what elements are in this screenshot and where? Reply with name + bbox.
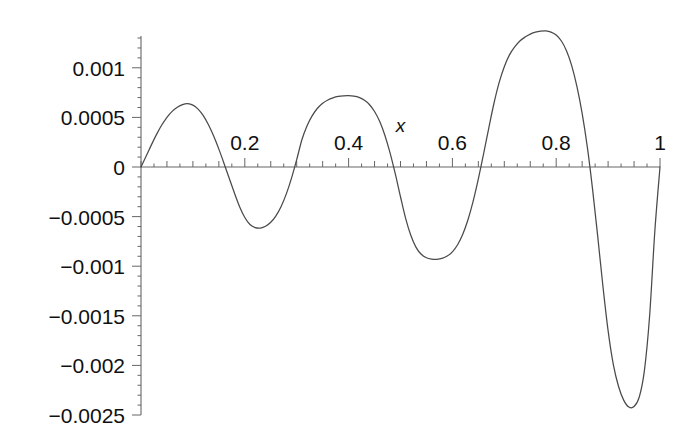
y-tick-label: −0.002 <box>60 354 125 377</box>
x-tick-label: 0.8 <box>542 131 571 154</box>
y-tick-label: −0.0005 <box>49 206 126 229</box>
chart-page: 0.20.40.60.81 0.0010.00050−0.0005−0.001−… <box>0 0 690 448</box>
x-tick-label: 0.2 <box>230 131 259 154</box>
y-tick-label: −0.0015 <box>49 305 126 328</box>
plot-figure: 0.20.40.60.81 0.0010.00050−0.0005−0.001−… <box>0 0 690 448</box>
y-tick-label: 0.001 <box>72 57 125 80</box>
x-axis-name-label: x <box>395 115 407 136</box>
y-tick-label: 0.0005 <box>61 106 125 129</box>
y-tick-label: −0.0025 <box>49 404 126 427</box>
x-tick-label: 1 <box>654 131 666 154</box>
annotations: x <box>395 115 407 136</box>
x-tick-label: 0.6 <box>438 131 467 154</box>
x-tick-label: 0.4 <box>334 131 364 154</box>
y-tick-label: 0 <box>113 156 125 179</box>
y-tick-label: −0.001 <box>60 255 125 278</box>
